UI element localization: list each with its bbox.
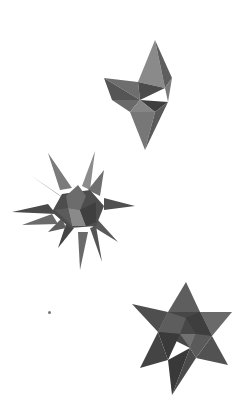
speck: [48, 311, 51, 314]
photo-scene: [0, 0, 251, 397]
polyhedra-illustration: [0, 0, 251, 397]
top-star-polyhedron: [104, 40, 172, 150]
bottom-star-polyhedron: [132, 282, 232, 395]
middle-star-polyhedron: [12, 151, 135, 270]
